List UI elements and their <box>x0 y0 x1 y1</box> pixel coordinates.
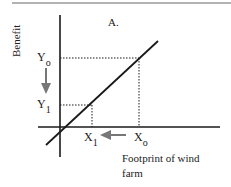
x-axis-label-line2: farm <box>122 167 143 179</box>
x-decrease-arrow-icon <box>100 130 126 140</box>
x-axis-label-line1: Footprint of wind <box>122 152 200 164</box>
x0-label: Xo <box>134 130 148 148</box>
y-decrease-arrow-icon <box>41 68 51 94</box>
panel-label: A. <box>108 16 119 28</box>
y1-label: Y1 <box>37 97 51 115</box>
benefit-footprint-diagram: A. Benefit Yo Y1 X1 Xo Footprint of wind… <box>0 0 231 187</box>
y0-label: Yo <box>37 50 51 68</box>
y-axis-label: Benefit <box>10 25 22 57</box>
x1-label: X1 <box>84 130 98 148</box>
